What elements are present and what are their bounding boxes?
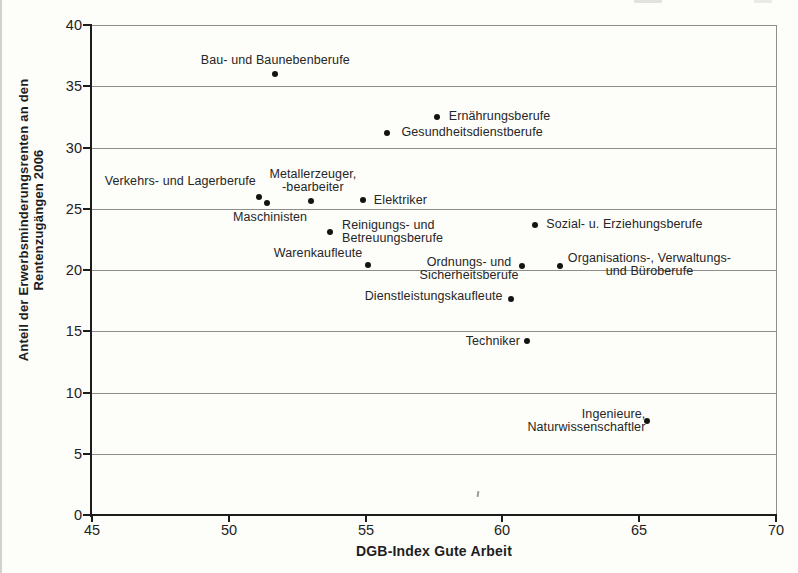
y-tick-label-35: 35 [46, 78, 82, 94]
x-tick-label-65: 65 [617, 522, 661, 538]
x-tick-label-50: 50 [207, 522, 251, 538]
x-tick-label-45: 45 [70, 522, 114, 538]
data-point-label-line: Sozial- u. Erziehungsberufe [546, 218, 702, 231]
gridline-y-5 [92, 454, 776, 455]
x-axis-line [90, 514, 777, 516]
gridline-y-30 [92, 148, 776, 149]
data-point-label: Ernährungsberufe [449, 110, 551, 123]
data-point-label: Gesundheitsdienstberufe [401, 126, 542, 139]
y-tick-label-10: 10 [46, 385, 82, 401]
gridline-y-35 [92, 86, 776, 87]
y-tick-label-5: 5 [46, 446, 82, 462]
data-point-label: Reinigungs- undBetreuungsberufe [342, 219, 443, 245]
data-point-dot [360, 197, 366, 203]
y-axis-title-line1: Anteil der Erwerbsminderungsrenten an de… [16, 79, 31, 362]
y-tick-label-20: 20 [46, 262, 82, 278]
scan-artifact [754, 0, 772, 3]
data-point-label-line: Naturwissenschaftler [527, 421, 645, 434]
y-axis-title: Anteil der Erwerbsminderungsrenten an de… [16, 79, 46, 362]
data-point-dot [264, 200, 270, 206]
y-axis-line [90, 24, 92, 517]
data-point-label: Warenkaufleute [274, 247, 363, 260]
data-point-dot [524, 338, 530, 344]
data-point-dot [256, 194, 262, 200]
data-point-label-line: Verkehrs- und Lagerberufe [105, 175, 256, 188]
y-tick-label-30: 30 [46, 140, 82, 156]
y-axis-title-line2: Rentenzugängen 2006 [31, 79, 46, 362]
plot-frame-right [776, 25, 777, 515]
data-point-label-line: Gesundheitsdienstberufe [401, 126, 542, 139]
y-tick-label-40: 40 [46, 17, 82, 33]
plot-frame-top [92, 25, 776, 26]
data-point-label: Metallerzeuger,-bearbeiter [269, 168, 356, 194]
data-point-label: Verkehrs- und Lagerberufe [105, 175, 256, 188]
data-point-label-line: Betreuungsberufe [342, 232, 443, 245]
data-point-label: Elektriker [374, 194, 427, 207]
scan-artifact [634, 0, 662, 3]
data-point-label-line: Sicherheitsberufe [420, 269, 519, 282]
x-tick-label-55: 55 [344, 522, 388, 538]
data-point-label: Maschinisten [233, 211, 307, 224]
x-axis-title: DGB-Index Gute Arbeit [92, 543, 776, 559]
data-point-label-line: -bearbeiter [269, 181, 356, 194]
data-point-label-line: und Büroberufe [568, 265, 731, 278]
data-point-label: Sozial- u. Erziehungsberufe [546, 218, 702, 231]
gridline-y-10 [92, 393, 776, 394]
scan-edge-shadow [0, 0, 2, 573]
data-point-dot [532, 222, 538, 228]
y-tick-label-15: 15 [46, 323, 82, 339]
data-point-dot [365, 262, 371, 268]
y-tick-label-0: 0 [46, 507, 82, 523]
data-point-dot [519, 263, 525, 269]
data-point-label: Organisations-, Verwaltungs-und Büroberu… [568, 252, 731, 278]
data-point-label-line: Bau- und Baunebenberufe [201, 54, 350, 67]
x-tick-label-60: 60 [480, 522, 524, 538]
x-tick-label-70: 70 [754, 522, 798, 538]
data-point-label: Bau- und Baunebenberufe [201, 54, 350, 67]
data-point-label: Ordnungs- undSicherheitsberufe [420, 256, 519, 282]
data-point-label-line: Dienstleistungskaufleute [365, 290, 503, 303]
y-tick-label-25: 25 [46, 201, 82, 217]
data-point-dot [308, 198, 314, 204]
data-point-dot [327, 229, 333, 235]
data-point-label-line: Elektriker [374, 194, 427, 207]
data-point-dot [508, 296, 514, 302]
data-point-dot [557, 263, 563, 269]
scan-artifact [477, 491, 480, 497]
gridline-y-15 [92, 331, 776, 332]
data-point-label-line: Techniker [466, 335, 520, 348]
data-point-label: Ingenieure,Naturwissenschaftler [527, 408, 645, 434]
data-point-label-line: Warenkaufleute [274, 247, 363, 260]
data-point-dot [272, 71, 278, 77]
data-point-label: Techniker [466, 335, 520, 348]
data-point-label-line: Ernährungsberufe [449, 110, 551, 123]
data-point-dot [384, 130, 390, 136]
data-point-dot [434, 114, 440, 120]
scatter-chart: Anteil der Erwerbsminderungsrenten an de… [0, 0, 798, 573]
gridline-y-25 [92, 209, 776, 210]
data-point-label-line: Maschinisten [233, 211, 307, 224]
data-point-label: Dienstleistungskaufleute [365, 290, 503, 303]
data-point-label-line: Ingenieure, [527, 408, 645, 421]
